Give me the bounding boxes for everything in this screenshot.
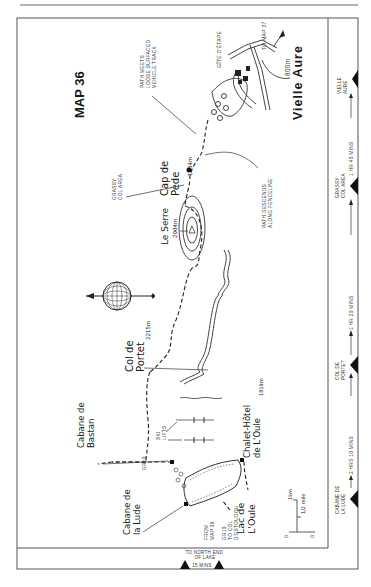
trail-segment-4 xyxy=(112,372,150,462)
svg-text:1634m: 1634m xyxy=(187,157,193,176)
ski-lifts xyxy=(166,397,222,443)
waypoint-label-grassy-col: GRASSY COL AREA xyxy=(335,173,346,198)
svg-text:2004m: 2004m xyxy=(172,219,178,238)
cap-de-pede-elevation: 1634m xyxy=(187,157,193,176)
waypoint-label-cabane-de-la-lude: CABANE DE LA LUDE xyxy=(335,484,346,514)
waypoint-label-vielle-aure: VIELLE AURE xyxy=(337,75,348,94)
cap-de-pede-label: Cap de Pède xyxy=(159,158,181,196)
svg-text:Cabane de Bastan: Cabane de Bastan xyxy=(76,400,96,448)
svg-text:2215m: 2215m xyxy=(145,321,151,340)
svg-text:0: 0 xyxy=(309,535,315,538)
col-de-portet-label: Col de Portet xyxy=(124,337,146,372)
col-de-portet-elevation: 2215m xyxy=(145,321,151,340)
svg-text:GR10 TO COL D'ESTO: GR10 TO COL D'ESTOUDOU xyxy=(222,505,239,540)
trail-segment-3 xyxy=(150,268,192,372)
gr10-label: GR10 xyxy=(142,456,147,470)
svg-text:MAP 36: MAP 36 xyxy=(72,71,87,118)
leader-line xyxy=(205,152,258,168)
vielle-aure-label: Vielle Aure xyxy=(291,45,305,120)
svg-text:1km: 1km xyxy=(287,489,293,500)
lac-de-loule-lake xyxy=(184,460,241,506)
le-serre-elevation: 2004m xyxy=(172,219,178,238)
svg-text:Col de Portet: Col de Portet xyxy=(124,337,146,372)
trail-map: MAP 36 Vielle Aure 800m TO MAP 37 GÎTE D… xyxy=(0,0,371,587)
scale-zero-mile: 0 xyxy=(309,535,315,538)
svg-text:Cap de Pède: Cap de Pède xyxy=(159,158,181,196)
svg-text:1 HR 20 MINS: 1 HR 20 MINS xyxy=(349,295,354,330)
cabane-de-bastan-label: Cabane de Bastan xyxy=(76,400,96,448)
leader-line xyxy=(143,506,183,532)
waypoint-marker-icon xyxy=(350,356,358,374)
from-map-35-label: FROM MAP 35 xyxy=(204,521,215,540)
scale-zero-km: 0 xyxy=(283,535,289,538)
bottom-strip-label: TO NORTH END OF LAKE xyxy=(185,550,224,560)
ski-lifts-label: SKI LIFTS xyxy=(156,425,167,440)
scale-km-label: 1km xyxy=(287,489,293,500)
svg-text:GRASSY COL AREA: GRASSY COL AREA xyxy=(112,173,123,200)
gr10-to-col-label: GR10 TO COL D'ESTOUDOU xyxy=(222,505,239,540)
svg-text:GÎTE D'ÉTAPE: GÎTE D'ÉTAPE xyxy=(216,30,222,68)
segment-duration-3: 2 HRS 10 MINS xyxy=(349,436,354,474)
chalet-hotel-elevation: 1819m xyxy=(258,378,264,396)
map-outer-frame xyxy=(17,18,358,569)
svg-text:PATH DESCENDS ALONG FE: PATH DESCENDS ALONG FENCELINE xyxy=(262,178,273,228)
waypoint-marker-icon xyxy=(180,560,190,569)
vielle-aure-village xyxy=(212,30,291,121)
cabane-de-la-lude-label: Cabane de la Lude xyxy=(122,487,142,535)
svg-text:1819m: 1819m xyxy=(258,378,264,396)
waypoint-marker-icon xyxy=(350,177,358,195)
svg-text:800m: 800m xyxy=(284,59,291,76)
vielle-aure-elevation: 800m xyxy=(284,59,291,76)
svg-text:Chalet-Hôtel de L'Oule: Chalet-Hôtel de L'Oule xyxy=(242,402,262,458)
svg-text:0: 0 xyxy=(283,535,289,538)
svg-text:Le Serre: Le Serre xyxy=(160,207,170,245)
svg-text:GRASSY COL AREA: GRASSY COL AREA xyxy=(335,173,346,198)
waypoint-marker-icon xyxy=(350,490,358,508)
svg-text:TO MAP 37: TO MAP 37 xyxy=(261,21,267,50)
svg-text:COL DE PORTET: COL DE PORTET xyxy=(335,360,346,380)
svg-text:Cabane de la Lude: Cabane de la Lude xyxy=(122,487,142,535)
compass-north-icon xyxy=(86,282,155,310)
path-descends-label: PATH DESCENDS ALONG FENCELINE xyxy=(262,178,273,228)
grassy-col-label: GRASSY COL AREA xyxy=(112,173,123,200)
le-serre-hill xyxy=(179,196,205,260)
gite-detape-label: GÎTE D'ÉTAPE xyxy=(216,30,222,68)
chalet-hotel-label: Chalet-Hôtel de L'Oule xyxy=(242,402,262,458)
to-map-37-arrow-icon xyxy=(279,30,285,38)
svg-text:FROM MAP 35: FROM MAP 35 xyxy=(204,521,215,540)
leader-line xyxy=(152,96,196,134)
svg-text:1 HR 40 MINS: 1 HR 40 MINS xyxy=(349,141,354,176)
bottom-strip-duration: 15 MINS xyxy=(192,563,212,568)
map-title: MAP 36 xyxy=(72,71,87,118)
svg-text:Vielle Aure: Vielle Aure xyxy=(291,45,305,120)
waypoint-marker-icon xyxy=(214,560,224,569)
svg-text:GR10: GR10 xyxy=(142,456,147,470)
segment-duration-1: 1 HR 40 MINS xyxy=(349,141,354,176)
le-serre-label: Le Serre xyxy=(160,207,170,245)
to-map-37-label: TO MAP 37 xyxy=(261,21,267,50)
svg-text:1/2 mile: 1/2 mile xyxy=(300,494,306,514)
scale-mile-label: 1/2 mile xyxy=(300,494,306,514)
svg-text:PATH MEETS LOOSE SURFACE: PATH MEETS LOOSE SURFACED VEHICLE TRACK xyxy=(140,38,157,88)
waypoint-marker-icon xyxy=(352,70,358,88)
svg-text:SKI LIFTS: SKI LIFTS xyxy=(156,425,167,440)
cabane-de-la-lude-marker-icon xyxy=(184,502,188,506)
segment-duration-2: 1 HR 20 MINS xyxy=(349,295,354,330)
waypoint-label-col-de-portet: COL DE PORTET xyxy=(335,360,346,380)
svg-text:CABANE DE LA LUDE: CABANE DE LA LUDE xyxy=(335,484,346,514)
svg-text:2 HRS 10 MINS: 2 HRS 10 MINS xyxy=(349,436,354,474)
svg-text:VIELLE AURE: VIELLE AURE xyxy=(337,75,348,94)
path-meets-track-label: PATH MEETS LOOSE SURFACED VEHICLE TRACK xyxy=(140,38,157,88)
